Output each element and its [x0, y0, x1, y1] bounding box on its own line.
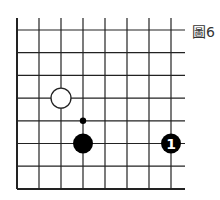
black-stone	[73, 134, 93, 154]
go-board-diagram: 1	[0, 0, 220, 200]
stone-number: 1	[166, 136, 176, 152]
white-stone	[51, 88, 71, 108]
marker-dot	[80, 118, 86, 124]
figure-label: 圖6	[192, 21, 215, 41]
